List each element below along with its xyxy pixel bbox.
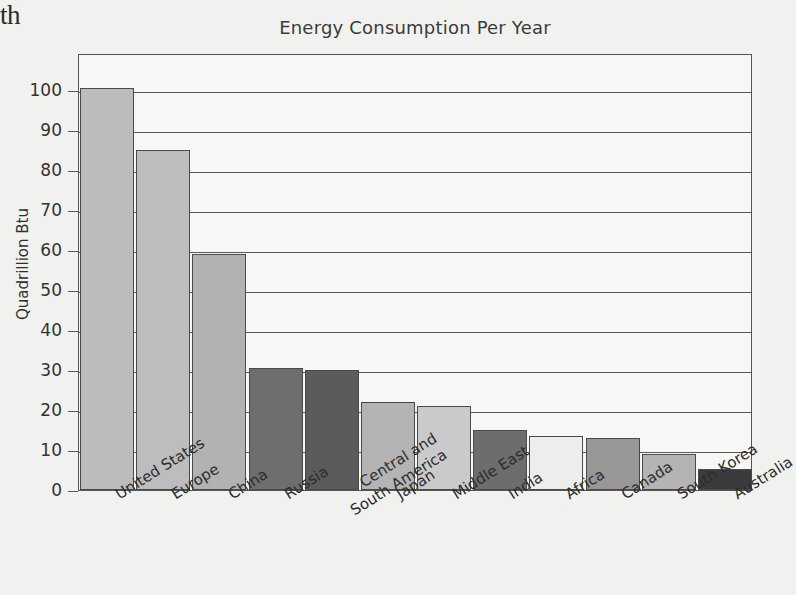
y-tick-mark [68,171,78,172]
y-tick-mark [68,291,78,292]
x-axis-category-labels: United StatesEuropeChinaRussiaCentral an… [78,491,752,595]
y-tick-label: 60 [10,240,62,260]
bar [136,150,190,490]
y-tick-label: 100 [10,80,62,100]
y-tick-label: 50 [10,280,62,300]
y-tick-mark [68,211,78,212]
y-axis-tick-labels: 0102030405060708090100 [0,0,62,595]
y-tick-label: 20 [10,400,62,420]
y-tick-label: 10 [10,440,62,460]
y-tick-label: 0 [10,480,62,500]
y-tick-mark [68,131,78,132]
y-tick-mark [68,91,78,92]
y-tick-mark [68,411,78,412]
y-tick-label: 30 [10,360,62,380]
gridline [79,132,751,133]
y-tick-label: 90 [10,120,62,140]
y-tick-mark [68,251,78,252]
plot-area [78,54,752,491]
y-tick-mark [68,371,78,372]
y-tick-mark [68,331,78,332]
y-tick-mark [68,491,78,492]
y-tick-label: 40 [10,320,62,340]
gridline [79,92,751,93]
y-tick-mark [68,451,78,452]
bar [80,88,134,490]
chart-title: Energy Consumption Per Year [78,17,752,38]
y-tick-label: 70 [10,200,62,220]
y-tick-label: 80 [10,160,62,180]
